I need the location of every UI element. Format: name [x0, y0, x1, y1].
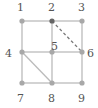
node-label-2: 2 — [48, 1, 55, 14]
node-9 — [79, 80, 84, 85]
node-label-5: 5 — [51, 40, 58, 53]
node-label-1: 1 — [17, 1, 24, 14]
node-1 — [19, 18, 24, 23]
node-label-4: 4 — [5, 47, 12, 60]
graph-diagram: 123456789 — [0, 0, 98, 108]
graph-canvas: 123456789 — [0, 0, 98, 108]
node-4 — [19, 49, 24, 54]
node-8 — [49, 80, 54, 85]
node-2 — [49, 18, 54, 23]
node-3 — [79, 18, 84, 23]
node-label-6: 6 — [87, 47, 94, 60]
node-6 — [79, 49, 84, 54]
node-label-9: 9 — [78, 92, 85, 105]
node-label-7: 7 — [17, 92, 24, 105]
node-label-8: 8 — [48, 92, 55, 105]
node-label-3: 3 — [78, 1, 85, 14]
edge-4-8 — [22, 52, 52, 83]
node-7 — [19, 80, 24, 85]
